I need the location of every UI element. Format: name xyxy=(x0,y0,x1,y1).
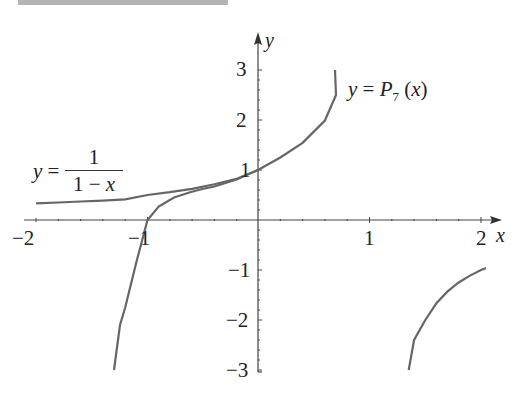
p7-label: y = P7 (x) xyxy=(348,79,428,103)
x-axis-label: x xyxy=(496,225,505,245)
y-tick-label-neg1: −1 xyxy=(228,260,250,281)
x-tick-label-1: 1 xyxy=(364,228,375,249)
y-tick-label-neg3: −3 xyxy=(226,360,248,381)
rational-label-lhs: yy = = xyxy=(33,161,59,182)
fraction-bar xyxy=(65,170,123,171)
y-tick-label-neg2: −2 xyxy=(226,310,248,331)
y-axis xyxy=(258,38,262,372)
rational-label-fraction: 1 1 − x xyxy=(65,146,123,195)
y-tick-label-1: 1 xyxy=(240,160,251,181)
x-tick-label-2: 2 xyxy=(476,228,487,249)
curve-rational-right-branch xyxy=(409,268,486,370)
y-tick-label-3: 3 xyxy=(236,59,247,80)
y-axis-label: y xyxy=(265,30,274,50)
x-axis xyxy=(24,217,496,223)
x-tick-label-neg2: −2 xyxy=(12,228,34,249)
rational-denominator: 1 − x xyxy=(65,173,123,195)
y-tick-label-2: 2 xyxy=(236,110,247,131)
rational-numerator: 1 xyxy=(65,146,123,168)
x-tick-label-neg1: −1 xyxy=(128,228,150,249)
plot-area xyxy=(0,0,524,394)
